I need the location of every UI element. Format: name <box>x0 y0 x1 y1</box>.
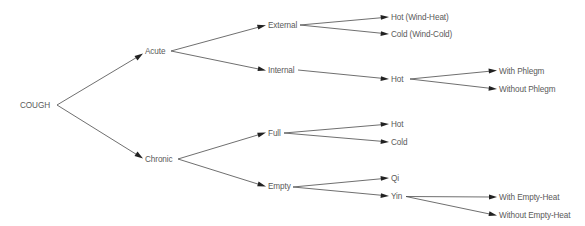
node-internal-hot: Hot <box>391 75 404 84</box>
arrowhead-icon <box>381 176 390 181</box>
edge-full-cold <box>284 133 384 142</box>
arrowhead-icon <box>135 54 144 61</box>
node-without-empty-heat: Without Empty-Heat <box>499 211 571 220</box>
node-acute: Acute <box>145 47 166 56</box>
arrowhead-icon <box>489 195 497 200</box>
node-empty: Empty <box>268 182 292 191</box>
node-cough: COUGH <box>20 101 50 110</box>
arrowhead-icon <box>257 182 266 187</box>
edge-empty-yin <box>293 187 384 196</box>
edge-yin-without-empty-heat <box>406 197 492 215</box>
node-internal: Internal <box>268 66 295 75</box>
node-external: External <box>268 21 298 30</box>
arrowhead-icon <box>381 15 390 20</box>
arrowhead-icon <box>381 193 390 198</box>
arrowhead-icon <box>381 31 390 36</box>
arrowhead-icon <box>381 122 390 127</box>
node-full: Full <box>268 129 281 138</box>
edge-internal-hot <box>298 70 384 79</box>
node-full-cold: Cold <box>391 138 408 147</box>
nodes: COUGH Acute Chronic External Internal Ho… <box>20 13 571 220</box>
node-without-phlegm: Without Phlegm <box>499 85 556 94</box>
arrowhead-icon <box>489 86 498 91</box>
node-with-empty-heat: With Empty-Heat <box>499 193 560 202</box>
node-yin: Yin <box>391 192 403 201</box>
edge-cough-chronic <box>57 105 139 156</box>
arrowhead-icon <box>489 69 498 74</box>
edge-chronic-empty <box>178 159 261 185</box>
edge-acute-internal <box>171 51 261 70</box>
node-hot-wind-heat: Hot (Wind-Heat) <box>391 13 449 22</box>
arrowhead-icon <box>257 133 266 138</box>
node-full-hot: Hot <box>391 120 404 129</box>
edge-full-hot <box>284 125 384 134</box>
edge-chronic-full <box>178 134 261 159</box>
cough-differentiation-diagram: COUGH Acute Chronic External Internal Ho… <box>0 0 585 226</box>
edge-cough-acute <box>57 56 139 105</box>
node-cold-wind-cold: Cold (Wind-Cold) <box>391 30 453 39</box>
edge-external-hot <box>300 18 384 26</box>
node-chronic: Chronic <box>145 155 173 164</box>
arrowhead-icon <box>489 211 498 216</box>
edge-hot-with-phlegm <box>410 71 492 79</box>
edge-hot-without-phlegm <box>410 79 492 89</box>
arrowhead-icon <box>381 139 390 144</box>
arrowhead-icon <box>135 152 144 159</box>
edge-external-cold <box>300 25 384 34</box>
edge-acute-external <box>171 27 261 52</box>
edge-yin-with-empty-heat <box>406 197 492 198</box>
node-with-phlegm: With Phlegm <box>499 67 545 76</box>
edge-empty-qi <box>293 179 384 188</box>
node-qi: Qi <box>391 174 399 183</box>
arrowhead-icon <box>381 76 390 81</box>
arrowhead-icon <box>258 66 267 71</box>
arrowhead-icon <box>257 25 266 30</box>
